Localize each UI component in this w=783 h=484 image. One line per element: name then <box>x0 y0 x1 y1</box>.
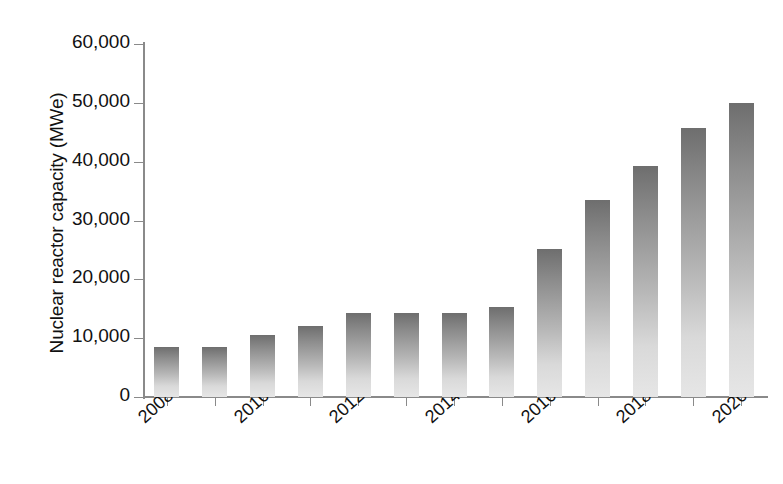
y-axis-tick-label: 30,000 <box>0 208 130 230</box>
x-axis-tick <box>215 397 216 406</box>
bar <box>250 335 275 397</box>
bar <box>537 249 562 397</box>
y-axis-tick <box>134 44 143 45</box>
y-axis-tick-label: 10,000 <box>0 325 130 347</box>
bar <box>729 103 754 397</box>
y-axis-tick <box>134 397 143 398</box>
y-axis-tick <box>134 162 143 163</box>
bar-chart-figure: Nuclear reactor capacity (MWe) 010,00020… <box>0 0 783 484</box>
x-axis-tick <box>693 397 694 406</box>
plot-area <box>143 44 765 397</box>
x-axis-tick <box>598 397 599 406</box>
y-axis-tick-label: 60,000 <box>0 31 130 53</box>
y-axis-tick <box>134 279 143 280</box>
bar <box>633 166 658 397</box>
bar <box>154 347 179 397</box>
bar <box>585 200 610 397</box>
y-axis-tick-label: 40,000 <box>0 149 130 171</box>
y-axis-tick-label: 20,000 <box>0 266 130 288</box>
bar <box>346 313 371 397</box>
x-axis-tick <box>406 397 407 406</box>
x-axis-tick <box>502 397 503 406</box>
y-axis-tick <box>134 221 143 222</box>
bar <box>442 313 467 397</box>
y-axis-tick-label: 0 <box>0 384 130 406</box>
x-axis-tick <box>310 397 311 406</box>
y-axis-tick-label: 50,000 <box>0 90 130 112</box>
bar <box>298 326 323 397</box>
bar <box>681 128 706 397</box>
y-axis-tick <box>134 338 143 339</box>
y-axis-tick <box>134 103 143 104</box>
bar <box>489 307 514 397</box>
bar <box>202 347 227 397</box>
bar <box>394 313 419 397</box>
